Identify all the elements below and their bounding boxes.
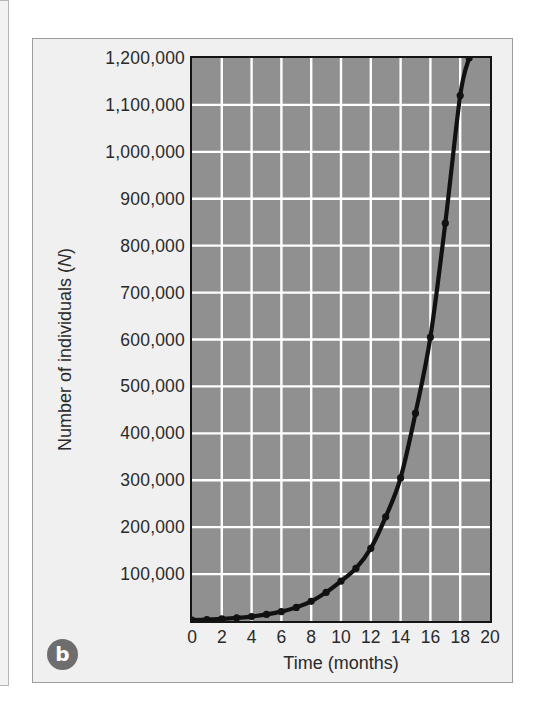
data-point (382, 513, 389, 520)
y-axis-tick-label: 600,000 (37, 329, 185, 350)
y-axis-tick-label: 1,100,000 (37, 94, 185, 115)
plot-area (190, 56, 492, 623)
y-axis-tick-label: 100,000 (37, 564, 185, 585)
y-axis-tick-label: 300,000 (37, 470, 185, 491)
data-point (457, 92, 464, 99)
data-point (203, 616, 210, 621)
x-axis-title: Time (months) (190, 653, 492, 674)
y-axis-tick-label: 900,000 (37, 188, 185, 209)
y-axis-tick-label: 1,200,000 (37, 48, 185, 69)
data-point (308, 598, 315, 605)
data-point (248, 613, 255, 620)
data-point (218, 615, 225, 621)
x-axis-tick-label: 20 (470, 627, 510, 648)
panel-label-badge: b (47, 639, 78, 670)
data-point (442, 220, 449, 227)
data-point (192, 616, 196, 621)
chart-canvas (192, 58, 490, 621)
figure-page: Number of individuals (N) 100,000200,000… (0, 0, 538, 722)
data-point (412, 410, 419, 417)
figure-panel-b: Number of individuals (N) 100,000200,000… (32, 38, 513, 683)
data-point (427, 334, 434, 341)
y-axis-tick-label: 400,000 (37, 423, 185, 444)
y-axis-tick-label: 500,000 (37, 376, 185, 397)
adjacent-panel-sliver (0, 0, 9, 686)
data-point (397, 474, 404, 481)
x-axis-tick-labels: 02468101214161820 (190, 627, 492, 653)
y-axis-tick-label: 200,000 (37, 517, 185, 538)
y-axis-tick-label: 700,000 (37, 282, 185, 303)
y-axis-tick-label: 800,000 (37, 235, 185, 256)
data-point (278, 608, 285, 615)
data-point (293, 604, 300, 611)
data-point (352, 565, 359, 572)
y-axis-tick-label: 1,000,000 (37, 141, 185, 162)
data-point (337, 578, 344, 585)
data-point (367, 545, 374, 552)
data-point (323, 589, 330, 596)
y-axis-tick-labels: 100,000200,000300,000400,000500,000600,0… (33, 39, 185, 649)
data-point (233, 614, 240, 621)
data-point (263, 611, 270, 618)
